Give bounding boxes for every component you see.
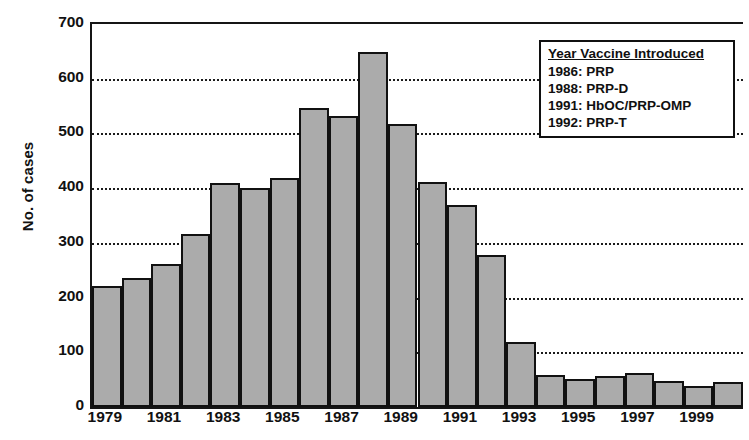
bar — [565, 379, 595, 407]
bar — [151, 264, 181, 407]
y-axis-tick-label: 700 — [26, 14, 84, 30]
x-axis-tick-label: 1987 — [312, 408, 372, 425]
y-axis-tick-label: 500 — [26, 124, 84, 140]
bar — [713, 382, 743, 407]
x-axis-tick-label: 1983 — [193, 408, 253, 425]
x-axis-tick-label: 1991 — [430, 408, 490, 425]
bar — [684, 386, 714, 407]
legend-entry: 1991: HbOC/PRP-OMP — [548, 97, 727, 114]
bar — [447, 205, 477, 407]
bar — [240, 188, 270, 407]
x-axis-tick-label: 1993 — [489, 408, 549, 425]
bar — [210, 183, 240, 407]
x-axis-tick-label: 1999 — [667, 408, 727, 425]
bar — [625, 373, 655, 407]
x-axis-tick-label: 1981 — [134, 408, 194, 425]
bar-chart-figure: No. of cases 0100200300400500600700 1979… — [0, 0, 749, 440]
legend-entry: 1992: PRP-T — [548, 114, 727, 131]
bar — [477, 255, 507, 407]
bar — [388, 124, 418, 407]
bar — [299, 108, 329, 407]
bar — [418, 182, 448, 407]
bar — [358, 52, 388, 407]
figure-caption-cropped — [92, 427, 512, 439]
bar — [654, 381, 684, 407]
y-axis-tick-label: 100 — [26, 343, 84, 359]
y-axis-tick-label: 400 — [26, 178, 84, 194]
bar — [595, 376, 625, 407]
bar — [270, 178, 300, 407]
y-axis-tick-label: 200 — [26, 288, 84, 304]
x-axis-tick-label: 1979 — [75, 408, 135, 425]
x-axis-tick-label: 1997 — [607, 408, 667, 425]
legend-entry: 1986: PRP — [548, 63, 727, 80]
bar — [536, 375, 566, 407]
bar — [122, 278, 152, 407]
y-axis-tick-label: 600 — [26, 69, 84, 85]
legend-entry: 1988: PRP-D — [548, 80, 727, 97]
legend-entry-list: 1986: PRP1988: PRP-D1991: HbOC/PRP-OMP19… — [548, 63, 727, 132]
bar — [329, 116, 359, 407]
y-axis-tick-labels: 0100200300400500600700 — [22, 0, 84, 440]
bar — [92, 286, 122, 407]
legend-box: Year Vaccine Introduced 1986: PRP1988: P… — [539, 40, 735, 138]
x-axis-tick-label: 1995 — [548, 408, 608, 425]
bar — [506, 342, 536, 407]
bar — [181, 234, 211, 407]
legend-title: Year Vaccine Introduced — [548, 46, 727, 63]
y-axis-tick-label: 300 — [26, 233, 84, 249]
x-axis-tick-label: 1989 — [371, 408, 431, 425]
x-axis-tick-label: 1985 — [252, 408, 312, 425]
